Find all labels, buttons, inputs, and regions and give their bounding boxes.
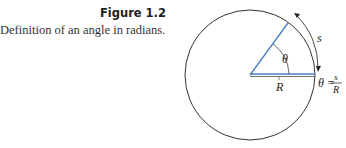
formula-numerator: s [334,72,338,82]
angle-theta-label: θ [282,52,288,66]
arrow-head-bottom-icon [316,66,321,72]
radian-diagram: θ R s θ = s R [0,0,346,148]
radius-label: R [275,80,284,94]
formula-denominator: R [332,84,339,95]
arc-length-label: s [317,31,322,45]
arrow-head-top-icon [294,13,300,18]
radius-line-angled [250,23,288,75]
arc-length-curve [296,15,318,68]
